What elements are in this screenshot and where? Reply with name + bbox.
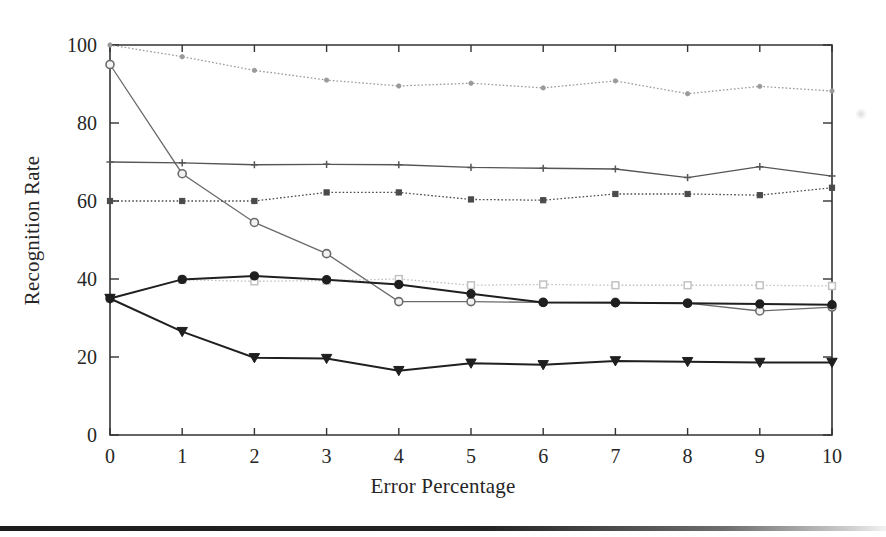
line-chart-plot: 012345678910020406080100 [0, 0, 886, 537]
y-tick-label: 100 [67, 34, 97, 56]
x-tick-label: 5 [466, 445, 476, 467]
marker-dot [108, 43, 112, 47]
y-tick-label: 40 [77, 268, 97, 290]
marker-circle-filled [828, 301, 836, 309]
scan-artifact-smudge [855, 108, 867, 120]
x-tick-label: 6 [538, 445, 548, 467]
marker-dot [830, 89, 834, 93]
y-tick-label: 60 [77, 190, 97, 212]
x-tick-label: 4 [394, 445, 404, 467]
marker-circle-filled [756, 300, 764, 308]
marker-plus [106, 158, 113, 165]
marker-circle [395, 298, 403, 306]
marker-dot [324, 78, 328, 82]
marker-open-square [684, 282, 691, 289]
series-group [106, 158, 835, 181]
marker-plus [612, 165, 619, 172]
axis-frame [110, 45, 832, 435]
marker-open-square [612, 282, 619, 289]
marker-small-square [757, 193, 762, 198]
marker-circle [106, 61, 114, 69]
marker-open-square [468, 282, 475, 289]
marker-circle [323, 250, 331, 258]
marker-circle [467, 298, 475, 306]
x-tick-label: 7 [610, 445, 620, 467]
marker-plus [828, 172, 835, 179]
marker-dot [469, 81, 473, 85]
x-tick-label: 0 [105, 445, 115, 467]
marker-circle-filled [178, 275, 186, 283]
marker-small-square [541, 198, 546, 203]
marker-dot [613, 79, 617, 83]
marker-circle-filled [250, 272, 258, 280]
series-group [107, 185, 834, 203]
marker-circle [178, 170, 186, 178]
marker-circle-filled [467, 290, 475, 298]
marker-circle [250, 218, 258, 226]
series-line [110, 65, 832, 311]
marker-dot [180, 55, 184, 59]
y-tick-label: 80 [77, 112, 97, 134]
marker-circle-filled [395, 280, 403, 288]
marker-circle-filled [106, 295, 114, 303]
marker-dot [541, 86, 545, 90]
x-tick-label: 10 [822, 445, 842, 467]
y-tick-label: 20 [77, 346, 97, 368]
marker-dot [252, 68, 256, 72]
marker-small-square [396, 190, 401, 195]
marker-open-square [540, 281, 547, 288]
marker-open-square [756, 282, 763, 289]
marker-plus [395, 161, 402, 168]
marker-plus [467, 164, 474, 171]
marker-plus [540, 165, 547, 172]
x-tick-label: 3 [322, 445, 332, 467]
marker-plus [756, 163, 763, 170]
marker-open-square [829, 283, 836, 290]
marker-dot [397, 84, 401, 88]
marker-plus [179, 159, 186, 166]
marker-circle-filled [611, 299, 619, 307]
marker-small-square [685, 191, 690, 196]
marker-dot [758, 84, 762, 88]
x-tick-label: 8 [683, 445, 693, 467]
marker-circle-filled [684, 299, 692, 307]
series-group [105, 294, 837, 375]
marker-dot [685, 92, 689, 96]
x-tick-label: 1 [177, 445, 187, 467]
y-tick-label: 0 [87, 424, 97, 446]
x-tick-label: 2 [249, 445, 259, 467]
marker-plus [684, 174, 691, 181]
marker-small-square [613, 191, 618, 196]
marker-circle-filled [539, 298, 547, 306]
page-edge-bar [0, 526, 886, 531]
x-tick-label: 9 [755, 445, 765, 467]
marker-small-square [468, 197, 473, 202]
marker-small-square [252, 198, 257, 203]
marker-plus [251, 161, 258, 168]
marker-plus [323, 161, 330, 168]
marker-small-square [829, 185, 834, 190]
marker-circle-filled [323, 276, 331, 284]
marker-small-square [324, 190, 329, 195]
marker-small-square [107, 198, 112, 203]
series-line [110, 45, 832, 94]
figure-container: Recognition Rate Error Percentage 012345… [0, 0, 886, 537]
marker-small-square [180, 198, 185, 203]
